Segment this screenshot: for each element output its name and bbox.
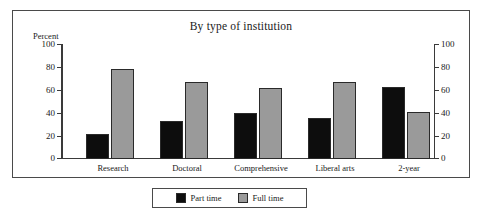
legend-swatch-full-time-icon	[238, 193, 248, 203]
y-axis-left-tick-label: 40	[29, 109, 55, 118]
y-axis-right-tick	[435, 113, 439, 114]
y-axis-right-tick-label: 100	[441, 40, 467, 49]
bar-part-time-comprehensive[interactable]	[234, 113, 257, 159]
bar-part-time-doctoral[interactable]	[160, 121, 183, 159]
bar-full-time-research[interactable]	[111, 69, 134, 159]
y-axis-left-tick-label: 0	[29, 154, 55, 163]
y-axis-right-tick	[435, 136, 439, 137]
y-axis-right-tick	[435, 44, 439, 45]
y-axis-left-tick-label: 60	[29, 86, 55, 95]
chart-legend: Part time Full time	[152, 188, 307, 208]
legend-item-part-time[interactable]: Part time	[176, 193, 222, 203]
chart-frame: By type of institution Percent 100 80 60…	[12, 10, 470, 178]
bar-full-time-2-year[interactable]	[407, 112, 430, 159]
bar-part-time-2-year[interactable]	[382, 87, 405, 159]
bar-full-time-comprehensive[interactable]	[259, 88, 282, 159]
y-axis-right-tick	[435, 67, 439, 68]
y-axis-right-tick	[435, 90, 439, 91]
bar-part-time-liberal-arts[interactable]	[308, 118, 331, 159]
legend-swatch-part-time-icon	[176, 193, 186, 203]
y-axis-right-tick	[435, 158, 439, 159]
y-axis-right-tick-label: 0	[441, 154, 467, 163]
legend-label-full-time: Full time	[253, 193, 284, 203]
y-axis-left-tick-label: 80	[29, 63, 55, 72]
bar-full-time-doctoral[interactable]	[185, 82, 208, 159]
legend-item-full-time[interactable]: Full time	[238, 193, 284, 203]
y-axis-left-tick-label: 100	[29, 40, 55, 49]
plot-area: 100 80 60 40 20 0 100 80 60 40 20 0 Rese…	[61, 44, 435, 159]
legend-label-part-time: Part time	[191, 193, 222, 203]
bars-layer: Research Doctoral Comprehensive Liberal …	[61, 44, 435, 159]
y-axis-right-tick-label: 20	[441, 132, 467, 141]
bar-full-time-liberal-arts[interactable]	[333, 82, 356, 159]
y-axis-right-tick-label: 40	[441, 109, 467, 118]
y-axis-right-tick-label: 80	[441, 63, 467, 72]
chart-title: By type of institution	[13, 20, 469, 32]
x-axis-tick-label-2-year: 2-year	[359, 163, 459, 173]
y-axis-right-tick-label: 60	[441, 86, 467, 95]
y-axis-left-tick-label: 20	[29, 132, 55, 141]
bar-part-time-research[interactable]	[86, 134, 109, 159]
